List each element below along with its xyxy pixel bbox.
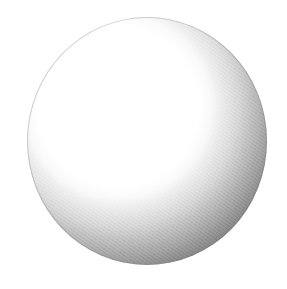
sphere-outline: [27, 17, 267, 265]
drawing-canvas: pencil sketch of a shaded sphere: [0, 0, 287, 289]
